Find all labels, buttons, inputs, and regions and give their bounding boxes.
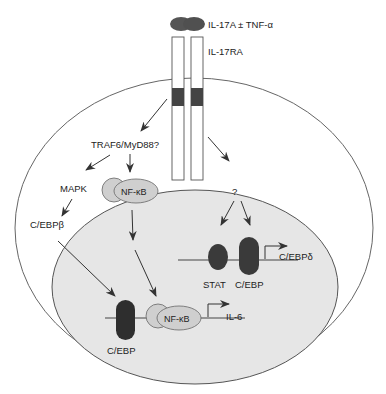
ligand-label: IL-17A ± TNF-α [208, 19, 273, 30]
nfkb-nuclear-label: NF-κB [164, 314, 190, 324]
cebp-factor-il6-promoter [116, 300, 135, 340]
cebpd-gene-label: C/EBPδ [279, 251, 313, 262]
membrane-band-left [172, 88, 184, 106]
cebp-label-il6-promoter: C/EBP [107, 345, 136, 356]
stat-factor [208, 244, 228, 270]
ligand-il17a [170, 17, 205, 31]
mapk-label: MAPK [60, 183, 88, 194]
traf6-myd88-label: TRAF6/MyD88? [91, 139, 159, 150]
nfkb-cytoplasm-label: NF-κB [121, 187, 147, 197]
cebp-label-delta-promoter: C/EBP [235, 279, 264, 290]
cebp-factor-delta-promoter [239, 237, 259, 275]
nucleus [52, 190, 338, 384]
cebpb-label: C/EBPβ [30, 219, 65, 230]
membrane-band-right [191, 88, 203, 106]
il6-gene-label: IL-6 [226, 311, 242, 322]
receptor-label: IL-17RA [208, 46, 244, 57]
stat-label: STAT [203, 279, 226, 290]
il17-signaling-diagram: IL-17A ± TNF-α IL-17RA TRAF6/MyD88? MAPK… [0, 0, 386, 394]
unknown-mediator-label: ? [232, 186, 237, 197]
